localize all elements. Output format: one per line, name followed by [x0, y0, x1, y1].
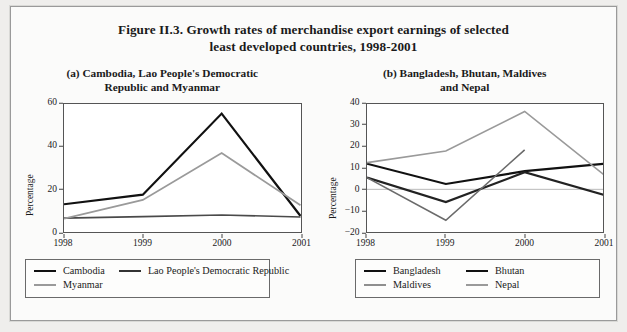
panel-b-series-svg: [367, 104, 604, 232]
legend-item-label: Myanmar: [63, 278, 103, 292]
panel-a-plot-box: [63, 103, 302, 233]
x-tick-label: 1998: [356, 238, 375, 248]
legend-item-label: Nepal: [495, 278, 519, 292]
series-line-myanmar: [64, 153, 301, 218]
x-tick-mark: [524, 234, 525, 238]
series-line-lao-people-s-democratic-republic: [64, 215, 301, 218]
legend-item[interactable]: Myanmar: [34, 278, 103, 292]
panel-a-title: (a) Cambodia, Lao People's Democratic Re…: [11, 66, 314, 94]
legend-row: MaldivesNepal: [364, 278, 591, 292]
x-tick-mark: [142, 234, 143, 238]
x-tick-mark: [445, 234, 446, 238]
figure-title-line2: least developed countries, 1998-2001: [11, 38, 616, 55]
x-tick-label: 2000: [212, 238, 231, 248]
panel-b-legend: BangladeshBhutanMaldivesNepal: [355, 259, 600, 298]
y-tick-label: 40: [48, 142, 58, 152]
panel-a-legend: CambodiaLao People's Democratic Republic…: [25, 259, 270, 298]
x-tick-label: 1999: [435, 238, 454, 248]
x-tick-label: 2000: [515, 238, 534, 248]
y-tick-label: 20: [48, 185, 58, 195]
panel-b-x-ticks: 1998199920002001: [366, 234, 605, 250]
series-line-cambodia: [64, 114, 301, 216]
panel-a-y-ticks: 0204060: [29, 103, 63, 233]
series-line-bangladesh: [367, 164, 604, 184]
panel-b-plot-area: Percentage −20−10010203040 1998199920002…: [314, 103, 617, 253]
legend-item[interactable]: Lao People's Democratic Republic: [119, 264, 289, 278]
legend-item[interactable]: Bangladesh: [364, 264, 462, 278]
legend-line-swatch: [34, 270, 56, 272]
legend-item[interactable]: Nepal: [466, 278, 564, 292]
y-tick-label: 60: [48, 98, 58, 108]
legend-line-swatch: [466, 284, 488, 286]
panel-b: (b) Bangladesh, Bhutan, Maldives and Nep…: [314, 66, 617, 298]
legend-item[interactable]: Maldives: [364, 278, 462, 292]
figure-title: Figure II.3. Growth rates of merchandise…: [11, 7, 616, 55]
y-tick-label: 10: [350, 163, 360, 173]
legend-item-label: Lao People's Democratic Republic: [148, 264, 289, 278]
y-tick-label: 40: [350, 98, 360, 108]
legend-line-swatch: [466, 270, 488, 272]
y-tick-label: 30: [350, 120, 360, 130]
panel-a-plot-area: Percentage 0204060 1998199920002001: [11, 103, 314, 253]
x-tick-mark: [604, 234, 605, 238]
legend-line-swatch: [364, 284, 386, 286]
legend-line-swatch: [34, 284, 56, 286]
panel-b-title: (b) Bangladesh, Bhutan, Maldives and Nep…: [314, 66, 617, 94]
panel-a-x-ticks: 1998199920002001: [63, 234, 302, 250]
panel-a-title-line2: Republic and Myanmar: [25, 80, 300, 94]
y-tick-label: 20: [350, 142, 360, 152]
legend-item-label: Bangladesh: [393, 264, 441, 278]
y-tick-label: 0: [52, 228, 57, 238]
panel-a-title-line1: (a) Cambodia, Lao People's Democratic: [66, 67, 258, 79]
panel-b-title-line1: (b) Bangladesh, Bhutan, Maldives: [383, 67, 547, 79]
x-tick-label: 2001: [292, 238, 311, 248]
panels-container: (a) Cambodia, Lao People's Democratic Re…: [11, 66, 616, 298]
panel-b-plot-box: [366, 103, 605, 233]
legend-item-label: Bhutan: [495, 264, 524, 278]
panel-b-y-ticks: −20−10010203040: [332, 103, 366, 233]
series-line-maldives: [367, 111, 604, 174]
legend-row: Myanmar: [34, 278, 261, 292]
legend-row: CambodiaLao People's Democratic Republic: [34, 264, 261, 278]
x-tick-label: 1999: [133, 238, 152, 248]
legend-line-swatch: [119, 270, 141, 272]
x-tick-mark: [302, 234, 303, 238]
legend-line-swatch: [364, 270, 386, 272]
x-tick-mark: [222, 234, 223, 238]
panel-a: (a) Cambodia, Lao People's Democratic Re…: [11, 66, 314, 298]
y-tick-label: 0: [355, 185, 360, 195]
x-tick-mark: [366, 234, 367, 238]
legend-item-label: Maldives: [393, 278, 431, 292]
legend-item[interactable]: Bhutan: [466, 264, 564, 278]
x-tick-label: 2001: [595, 238, 614, 248]
legend-row: BangladeshBhutan: [364, 264, 591, 278]
panel-a-series-svg: [64, 104, 301, 232]
legend-item-label: Cambodia: [63, 264, 105, 278]
figure-page: Figure II.3. Growth rates of merchandise…: [10, 6, 617, 321]
legend-item[interactable]: Cambodia: [34, 264, 105, 278]
panel-b-title-line2: and Nepal: [328, 80, 603, 94]
y-tick-label: −10: [345, 207, 360, 217]
figure-title-line1: Figure II.3. Growth rates of merchandise…: [118, 22, 509, 37]
y-tick-label: −20: [345, 228, 360, 238]
x-tick-label: 1998: [54, 238, 73, 248]
x-tick-mark: [63, 234, 64, 238]
